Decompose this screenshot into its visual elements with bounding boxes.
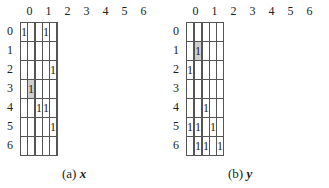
panel-caption: (b) y [228,166,252,182]
panel-caption: (a) x [62,166,86,182]
grid-cell [210,23,217,42]
grid-row: 11 [21,99,58,118]
grid-cell: 1 [195,42,202,61]
grid-cell [217,118,224,137]
grid-cell [217,23,224,42]
grid-cell [210,137,217,156]
grid-cell [50,23,57,42]
row-label: 4 [3,100,17,115]
grid-cell [57,80,58,99]
grid-cell [28,23,35,42]
grid-cell [217,42,224,61]
caption-variable: y [246,166,252,181]
row-label: 5 [169,119,183,134]
grid-cell [203,61,210,80]
column-label: 6 [134,4,153,19]
grid-cell: 1 [195,137,202,156]
grid-row: 111 [187,137,224,156]
grid-row: 1 [21,80,58,99]
grid-cell [195,80,202,99]
grid-cell [36,137,43,156]
grid-cell [21,61,28,80]
column-label: 6 [300,4,319,19]
grid-cell [187,137,194,156]
grid-cell [187,23,194,42]
grid-cell [187,80,194,99]
grid-cell [21,137,28,156]
grid-cell [21,80,28,99]
grid-cell [203,80,210,99]
grid-cell [57,61,58,80]
column-label: 1 [205,4,224,19]
caption-label: (b) [228,166,243,181]
grid-cell [36,61,43,80]
column-label: 0 [186,4,205,19]
grid-cell [50,137,57,156]
grid-cell [28,99,35,118]
row-label: 2 [3,62,17,77]
caption-label: (a) [62,166,76,181]
grid-cell [21,118,28,137]
grid-row: 1 [21,61,58,80]
grid-cell: 1 [203,99,210,118]
column-label: 5 [115,4,134,19]
grid-cell [28,118,35,137]
grid-cell [187,42,194,61]
grid-cell [43,118,50,137]
grid-cell [36,80,43,99]
grid-cell [210,42,217,61]
grid-cell [21,99,28,118]
grid-cell [57,137,58,156]
grid-cell [36,42,43,61]
grid-cell: 1 [50,118,57,137]
grid-row [187,23,224,42]
row-label: 2 [169,62,183,77]
grid-cell [43,61,50,80]
column-label: 3 [77,4,96,19]
grid-cell [57,99,58,118]
caption-variable: x [80,166,87,181]
row-label: 0 [3,24,17,39]
grid-cell [195,99,202,118]
grid-cell: 1 [195,118,202,137]
column-label: 2 [224,4,243,19]
column-label: 1 [39,4,58,19]
grid-cell [203,23,210,42]
grid-cell [217,80,224,99]
grid-row: 1 [187,42,224,61]
grid-cell [28,42,35,61]
grid-cell [21,42,28,61]
grid-row [187,80,224,99]
grid-cell [195,23,202,42]
grid-cell [50,99,57,118]
row-label: 3 [3,81,17,96]
matrix-grid: 1111111 [20,22,58,156]
grid-cell [195,61,202,80]
grid-row: 111 [187,118,224,137]
grid-cell: 1 [187,118,194,137]
grid-cell [210,61,217,80]
grid-cell [187,99,194,118]
column-label: 5 [281,4,300,19]
grid-cell: 1 [43,23,50,42]
grid-cell [36,118,43,137]
grid-row: 1 [187,61,224,80]
grid-cell: 1 [43,99,50,118]
grid-cell [210,99,217,118]
grid-cell: 1 [21,23,28,42]
row-label: 0 [169,24,183,39]
grid-cell [203,118,210,137]
grid-row: 11 [21,23,58,42]
grid-cell [217,61,224,80]
grid-cell [57,118,58,137]
grid-cell [50,42,57,61]
grid-cell [57,23,58,42]
grid-cell: 1 [210,118,217,137]
column-label: 4 [96,4,115,19]
column-label: 4 [262,4,281,19]
grid-row: 1 [187,99,224,118]
grid-row: 1 [21,118,58,137]
grid-cell [43,80,50,99]
grid-cell [203,42,210,61]
column-label: 0 [20,4,39,19]
